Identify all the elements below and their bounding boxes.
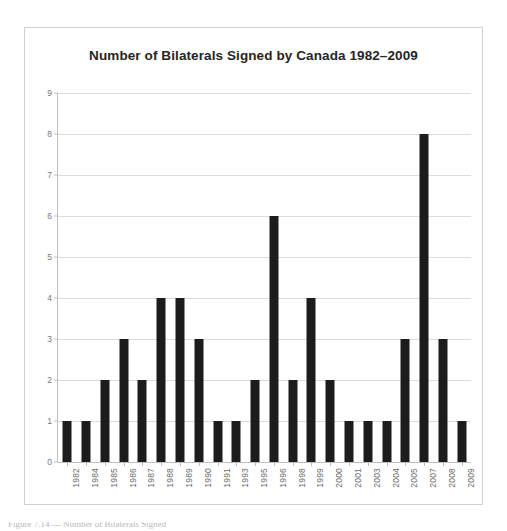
x-tick-mark xyxy=(462,462,463,466)
x-tick-label: 1986 xyxy=(128,468,138,488)
bar-slot xyxy=(114,93,133,462)
x-tick-mark xyxy=(274,462,275,466)
x-tick-label: 1985 xyxy=(109,468,119,488)
bar-slot xyxy=(189,93,208,462)
y-tick-label-6: 6 xyxy=(47,211,52,221)
bar-slot xyxy=(452,93,471,462)
y-tick-label-8: 8 xyxy=(47,129,52,139)
bar[interactable] xyxy=(194,339,203,462)
bar-slot xyxy=(152,93,171,462)
x-tick-label: 1995 xyxy=(259,468,269,488)
bar[interactable] xyxy=(457,421,466,462)
bar-slot xyxy=(265,93,284,462)
x-tick-mark xyxy=(405,462,406,466)
x-tick-label: 1982 xyxy=(71,468,81,488)
x-tick-mark xyxy=(349,462,350,466)
x-tick-label: 1989 xyxy=(184,468,194,488)
bar-slot xyxy=(246,93,265,462)
bar[interactable] xyxy=(269,216,278,462)
y-tick-label-9: 9 xyxy=(47,88,52,98)
x-tick-mark xyxy=(86,462,87,466)
bar-slot xyxy=(358,93,377,462)
bar-slot xyxy=(227,93,246,462)
x-tick-label: 2005 xyxy=(409,468,419,488)
bar[interactable] xyxy=(420,134,429,462)
x-tick-label: 1993 xyxy=(240,468,250,488)
bar[interactable] xyxy=(344,421,353,462)
x-tick-mark xyxy=(236,462,237,466)
bar[interactable] xyxy=(213,421,222,462)
x-tick-label: 1987 xyxy=(146,468,156,488)
x-tick-label: 2000 xyxy=(334,468,344,488)
figure-caption-clipped: Figure 7.14 — Number of Bilaterals Signe… xyxy=(8,522,308,531)
bar[interactable] xyxy=(157,298,166,462)
bar[interactable] xyxy=(176,298,185,462)
x-tick-label: 1984 xyxy=(90,468,100,488)
bar[interactable] xyxy=(119,339,128,462)
bar[interactable] xyxy=(251,380,260,462)
bar-slot xyxy=(377,93,396,462)
bar[interactable] xyxy=(382,421,391,462)
bar[interactable] xyxy=(326,380,335,462)
x-tick-mark xyxy=(424,462,425,466)
x-tick-label: 2009 xyxy=(466,468,476,488)
x-tick-mark xyxy=(387,462,388,466)
x-tick-mark xyxy=(311,462,312,466)
x-tick-label: 1991 xyxy=(222,468,232,488)
x-tick-label: 1996 xyxy=(278,468,288,488)
bar-slot xyxy=(302,93,321,462)
x-tick-mark xyxy=(67,462,68,466)
x-tick-mark xyxy=(180,462,181,466)
x-tick-label: 1988 xyxy=(165,468,175,488)
y-tick-label-0: 0 xyxy=(47,457,52,467)
bar[interactable] xyxy=(232,421,241,462)
bar-series xyxy=(58,93,471,462)
x-axis-tick-labels: 1982198419851986198719881989199019911993… xyxy=(58,468,471,502)
bar[interactable] xyxy=(82,421,91,462)
bar[interactable] xyxy=(63,421,72,462)
bar[interactable] xyxy=(288,380,297,462)
bar-slot xyxy=(96,93,115,462)
x-tick-mark xyxy=(124,462,125,466)
y-tick-label-1: 1 xyxy=(47,416,52,426)
x-tick-mark xyxy=(293,462,294,466)
bar[interactable] xyxy=(401,339,410,462)
bar-slot xyxy=(283,93,302,462)
x-tick-label: 1998 xyxy=(297,468,307,488)
x-tick-mark xyxy=(255,462,256,466)
bar-slot xyxy=(133,93,152,462)
x-tick-mark xyxy=(105,462,106,466)
bar[interactable] xyxy=(138,380,147,462)
bar[interactable] xyxy=(438,339,447,462)
bar-slot xyxy=(77,93,96,462)
bar-slot xyxy=(208,93,227,462)
chart-container: Number of Bilaterals Signed by Canada 19… xyxy=(24,27,483,505)
plot-area: 0123456789 xyxy=(58,93,471,462)
x-tick-mark xyxy=(142,462,143,466)
chart-title: Number of Bilaterals Signed by Canada 19… xyxy=(25,48,482,63)
bar[interactable] xyxy=(307,298,316,462)
bar-slot xyxy=(340,93,359,462)
bar-slot xyxy=(433,93,452,462)
y-tick-label-4: 4 xyxy=(47,293,52,303)
x-tick-mark xyxy=(443,462,444,466)
bar-slot xyxy=(171,93,190,462)
x-tick-mark xyxy=(368,462,369,466)
x-tick-label: 1990 xyxy=(203,468,213,488)
x-axis-tick-marks xyxy=(58,462,471,467)
x-tick-mark xyxy=(199,462,200,466)
y-tick-label-2: 2 xyxy=(47,375,52,385)
x-tick-mark xyxy=(330,462,331,466)
x-tick-label: 2007 xyxy=(428,468,438,488)
y-tick-label-5: 5 xyxy=(47,252,52,262)
bar-slot xyxy=(58,93,77,462)
y-tick-label-3: 3 xyxy=(47,334,52,344)
bar-slot xyxy=(415,93,434,462)
bar[interactable] xyxy=(363,421,372,462)
x-tick-label: 1999 xyxy=(315,468,325,488)
bar-slot xyxy=(396,93,415,462)
bar[interactable] xyxy=(100,380,109,462)
y-tick-label-7: 7 xyxy=(47,170,52,180)
bar-slot xyxy=(321,93,340,462)
x-tick-mark xyxy=(218,462,219,466)
